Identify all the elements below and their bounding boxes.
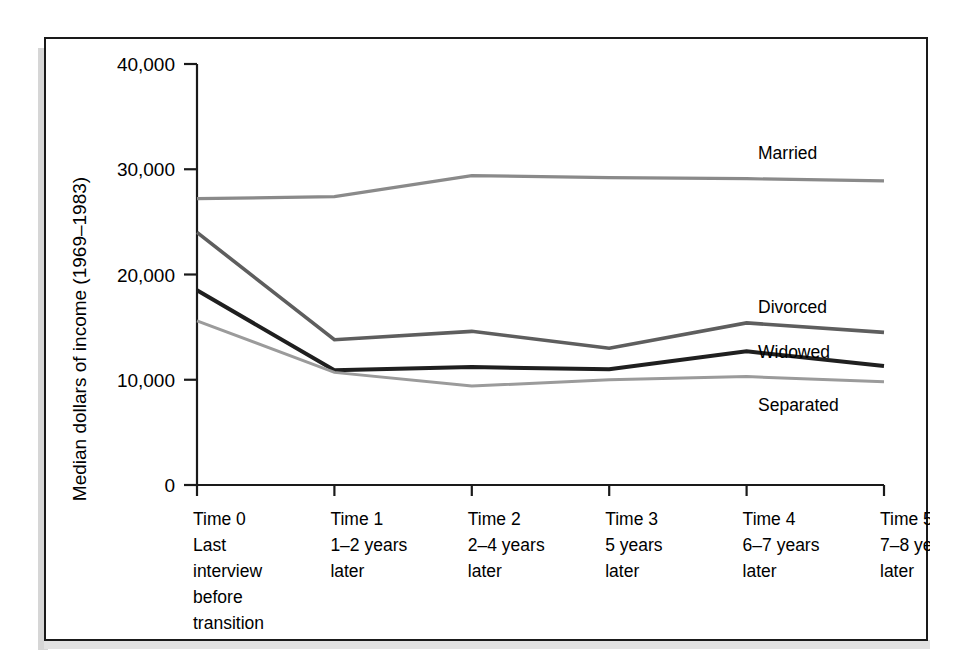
x-tick-label-line: later	[743, 561, 777, 581]
x-tick-label-line: Time 2	[468, 509, 521, 529]
x-tick-label-line: Time 4	[743, 509, 796, 529]
x-tick-label-line: 6–7 years	[743, 535, 820, 555]
x-tick-label-line: before	[193, 587, 243, 607]
x-tick-group: Time 0LastinterviewbeforetransitionTime …	[193, 485, 930, 633]
series-line-divorced	[197, 232, 884, 348]
line-chart: Median dollars of income (1969–1983) 010…	[46, 39, 930, 643]
x-tick-label-line: later	[880, 561, 914, 581]
x-tick-label-line: interview	[193, 561, 262, 581]
x-tick-label-line: 7–8 years	[880, 535, 930, 555]
series-label-separated: Separated	[758, 395, 839, 415]
page-background: Median dollars of income (1969–1983) 010…	[0, 0, 980, 671]
x-tick-label-line: Last	[193, 535, 226, 555]
x-tick-label-line: 1–2 years	[330, 535, 407, 555]
y-tick-label: 30,000	[117, 159, 175, 180]
y-tick-label: 10,000	[117, 370, 175, 391]
x-tick-label-line: Time 1	[330, 509, 383, 529]
series-line-married	[197, 176, 884, 199]
y-tick-label: 0	[164, 475, 175, 496]
x-tick-label-line: Time 3	[605, 509, 658, 529]
y-tick-group: 010,00020,00030,00040,000	[117, 54, 197, 496]
figure-frame: Median dollars of income (1969–1983) 010…	[44, 37, 928, 641]
series-label-divorced: Divorced	[758, 297, 827, 317]
series-label-married: Married	[758, 143, 817, 163]
series-label-group: MarriedDivorcedWidowedSeparated	[758, 143, 839, 415]
x-tick-label-line: later	[605, 561, 639, 581]
x-tick-label-line: later	[468, 561, 502, 581]
series-label-widowed: Widowed	[758, 342, 830, 362]
x-tick-label-line: 5 years	[605, 535, 663, 555]
y-axis-label: Median dollars of income (1969–1983)	[69, 177, 90, 501]
x-tick-label-line: later	[330, 561, 364, 581]
x-tick-label-line: Time 5	[880, 509, 930, 529]
x-tick-label-line: Time 0	[193, 509, 246, 529]
x-tick-label-line: 2–4 years	[468, 535, 545, 555]
y-tick-label: 20,000	[117, 265, 175, 286]
x-tick-label-line: transition	[193, 613, 264, 633]
y-tick-label: 40,000	[117, 54, 175, 75]
